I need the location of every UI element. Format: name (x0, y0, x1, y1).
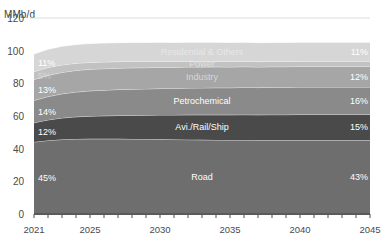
area-band-avi-rail-ship (34, 115, 370, 142)
x-axis-tick-2045: 2045 (359, 224, 380, 235)
x-axis-tick-2021: 2021 (23, 224, 44, 235)
x-axis-tick-2030: 2030 (149, 224, 170, 235)
y-axis-tick-20: 20 (0, 176, 30, 187)
x-axis: 202120252030203520402045 (0, 224, 383, 244)
x-axis-tick-2035: 2035 (219, 224, 240, 235)
y-axis-tick-40: 40 (0, 143, 30, 154)
y-axis-tick-100: 100 (0, 45, 30, 56)
y-axis-tick-120: 120 (0, 13, 30, 24)
y-axis-tick-80: 80 (0, 78, 30, 89)
y-axis: 020406080100120 (0, 0, 30, 247)
y-axis-tick-0: 0 (0, 209, 30, 220)
area-series-svg (34, 18, 370, 214)
x-axis-tick-2040: 2040 (289, 224, 310, 235)
plot-area (34, 18, 370, 214)
stacked-area-chart: MMb/d 020406080100120 RoadAvi./Rail/Ship… (0, 0, 383, 247)
y-axis-tick-60: 60 (0, 111, 30, 122)
area-band-road (34, 139, 370, 214)
x-axis-tick-2025: 2025 (79, 224, 100, 235)
